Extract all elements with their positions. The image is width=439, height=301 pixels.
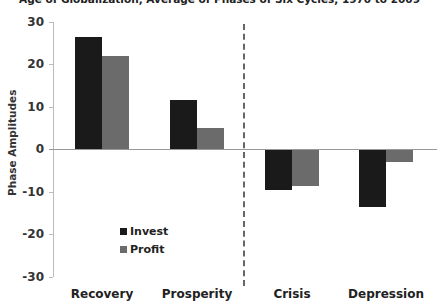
x-category-label: Crisis [242, 287, 342, 301]
legend-item-invest: Invest [120, 222, 168, 240]
y-tick [49, 64, 53, 65]
invest-swatch-icon [120, 228, 127, 235]
y-tick-label: 10 [0, 101, 44, 113]
bar-invest-depression [359, 150, 386, 207]
bar-invest-crisis [265, 150, 292, 190]
x-category-label: Recovery [52, 287, 152, 301]
y-tick-label: 20 [0, 58, 44, 70]
bar-profit-crisis [292, 150, 319, 186]
legend-item-profit: Profit [120, 240, 168, 258]
y-tick-label: 0 [0, 143, 44, 155]
y-tick [49, 192, 53, 193]
y-tick-label: 30 [0, 16, 44, 28]
legend: Invest Profit [120, 222, 168, 258]
y-tick [49, 107, 53, 108]
y-tick-label: -30 [0, 271, 44, 283]
bar-profit-recovery [102, 56, 129, 149]
legend-label: Profit [130, 243, 164, 256]
x-category-label: Depression [336, 287, 436, 301]
bar-profit-prosperity [197, 128, 224, 149]
bar-invest-prosperity [170, 100, 197, 149]
y-tick-label: -10 [0, 186, 44, 198]
bar-invest-recovery [75, 37, 102, 149]
y-tick [49, 277, 53, 278]
phase-divider [243, 24, 245, 286]
profit-swatch-icon [120, 246, 127, 253]
bar-profit-depression [386, 150, 413, 162]
x-category-label: Prosperity [147, 287, 247, 301]
y-tick [49, 234, 53, 235]
y-tick [49, 22, 53, 23]
y-tick-label: -20 [0, 228, 44, 240]
legend-label: Invest [130, 225, 168, 238]
chart-title: Age of Globalization, Average of Phases … [0, 0, 439, 5]
